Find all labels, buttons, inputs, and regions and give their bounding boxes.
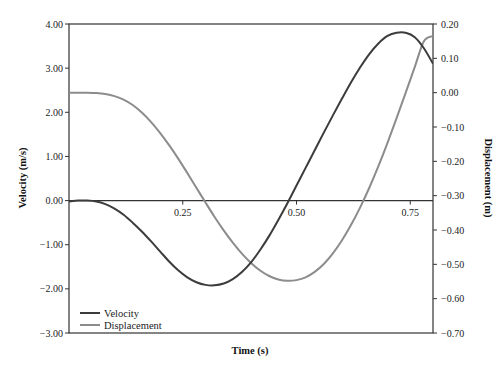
y-left-tick-label: 1.00	[46, 151, 64, 162]
y-right-tick-label: −0.20	[441, 156, 464, 167]
y-right-tick-label: −0.70	[441, 328, 464, 339]
series-line-velocity	[69, 32, 433, 285]
chart-canvas: 0.250.500.75 4.003.002.001.000.00−1.00−2…	[0, 0, 504, 371]
y-right-tick-label: 0.00	[441, 87, 459, 98]
x-tick-label: 0.25	[174, 207, 192, 218]
plot-frame	[69, 24, 433, 333]
x-tick-label: 0.50	[288, 207, 306, 218]
legend: Velocity Displacement	[80, 308, 162, 331]
x-tick-label: 0.75	[402, 207, 420, 218]
y-left-tick-label: −3.00	[40, 328, 63, 339]
y-right-tick-label: 0.20	[441, 19, 459, 30]
legend-label-velocity: Velocity	[104, 308, 140, 319]
y-right-tick-label: 0.10	[441, 53, 459, 64]
y-left-tick-label: 4.00	[46, 19, 64, 30]
x-axis-title: Time (s)	[232, 345, 269, 357]
y-right-tick-label: −0.50	[441, 259, 464, 270]
y-right-tick-label: −0.30	[441, 190, 464, 201]
y-left-axis-title: Velocity (m/s)	[17, 147, 29, 209]
y-axis-left: 4.003.002.001.000.00−1.00−2.00−3.00	[40, 19, 69, 339]
y-left-tick-label: 2.00	[46, 107, 64, 118]
y-left-tick-label: 3.00	[46, 63, 64, 74]
y-left-tick-label: −1.00	[40, 239, 63, 250]
y-right-axis-title: Displacement (m)	[482, 138, 494, 218]
y-right-tick-label: −0.60	[441, 293, 464, 304]
legend-label-displacement: Displacement	[104, 320, 162, 331]
y-axis-right: 0.200.100.00−0.10−0.20−0.30−0.40−0.50−0.…	[433, 19, 464, 339]
y-right-tick-label: −0.40	[441, 225, 464, 236]
series-layer	[69, 32, 433, 285]
series-line-displacement	[69, 36, 433, 281]
y-right-tick-label: −0.10	[441, 122, 464, 133]
y-left-tick-label: −2.00	[40, 283, 63, 294]
y-left-tick-label: 0.00	[46, 195, 64, 206]
plot-border	[69, 24, 433, 333]
